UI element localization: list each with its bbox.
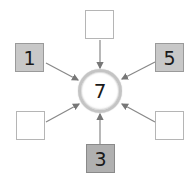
box-bottom-left[interactable] [16, 111, 45, 140]
box-bottom-right[interactable] [155, 111, 184, 140]
arrow-bottom-right [122, 104, 155, 122]
arrow-bottom-left [46, 104, 79, 122]
box-top[interactable] [85, 10, 114, 39]
box-left: 1 [15, 43, 44, 72]
box-right: 5 [155, 43, 184, 72]
arrow-left [46, 63, 78, 80]
arrow-right [122, 62, 155, 79]
box-bottom: 3 [86, 144, 115, 173]
center-circle: 7 [78, 69, 122, 113]
